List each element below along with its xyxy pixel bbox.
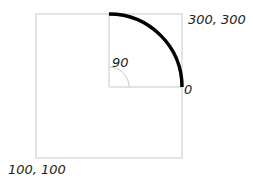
angle-0-label: 0 xyxy=(184,83,192,96)
quarter-arc xyxy=(109,14,182,87)
arc-diagram xyxy=(0,0,253,183)
angle-90-label: 90 xyxy=(112,56,129,69)
top-right-coordinate-label: 300, 300 xyxy=(188,13,246,26)
angle-indicator-arc xyxy=(109,67,129,87)
bottom-left-coordinate-label: 100, 100 xyxy=(8,163,66,176)
